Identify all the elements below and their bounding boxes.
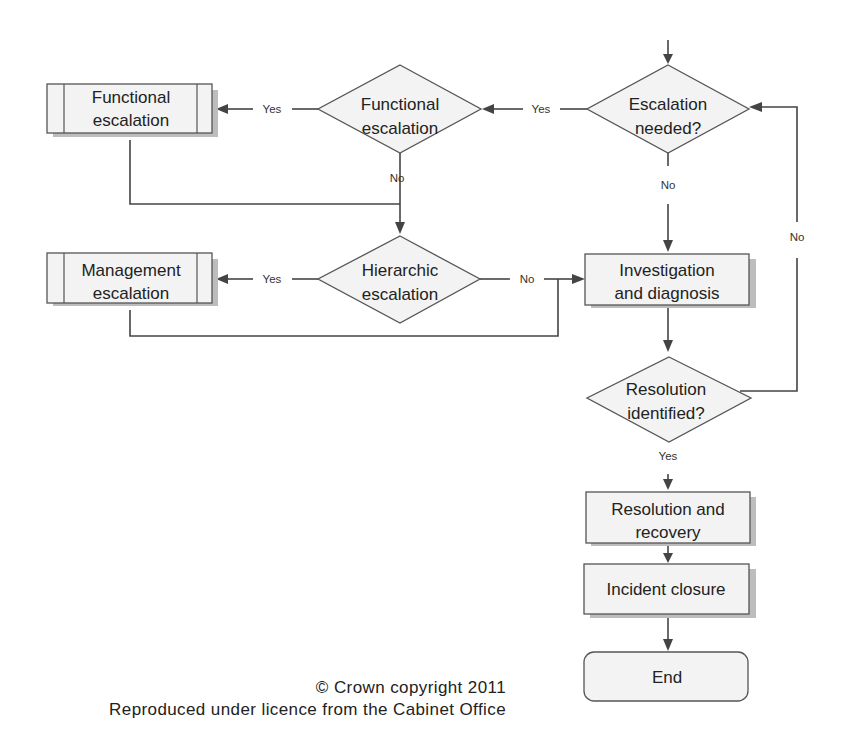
edge-functional-process-join: [130, 140, 400, 204]
decision-resolution-identified-line2: identified?: [627, 404, 705, 423]
process-investigation-line2: and diagnosis: [615, 284, 720, 303]
arrowhead-icon: [663, 639, 673, 651]
decision-hierarchic-escalation-line2: escalation: [362, 285, 439, 304]
arrowhead-icon: [663, 54, 673, 64]
decision-escalation-needed-line2: needed?: [635, 119, 701, 138]
copyright-notice: © Crown copyright 2011: [316, 678, 506, 698]
process-functional-escalation-line1: Functional: [92, 88, 170, 107]
decision-escalation-needed-line1: Escalation: [629, 95, 707, 114]
process-investigation-diagnosis: Investigation and diagnosis: [585, 254, 756, 308]
process-functional-escalation: Functional escalation: [47, 84, 218, 137]
label-resolution-no: No: [790, 231, 805, 243]
arrowhead-icon: [663, 240, 673, 252]
incident-escalation-flowchart: Yes Yes No Yes No No No Yes Escalation n…: [0, 0, 842, 756]
label-escalation-no: No: [661, 179, 676, 191]
decision-hierarchic-escalation-line1: Hierarchic: [362, 261, 439, 280]
arrowhead-icon: [663, 553, 673, 563]
arrowhead-icon: [749, 102, 762, 112]
process-management-escalation-line2: escalation: [93, 284, 170, 303]
process-resolution-recovery-line1: Resolution and: [611, 500, 724, 519]
process-management-escalation-line1: Management: [81, 261, 181, 280]
decision-functional-escalation-line1: Functional: [361, 95, 439, 114]
process-resolution-recovery-line2: recovery: [635, 523, 701, 542]
label-hierarchic-yes: Yes: [263, 273, 282, 285]
edge-resolution-no-loop-upper: [760, 107, 797, 222]
arrowhead-icon: [572, 274, 585, 284]
decision-resolution-identified: Resolution identified?: [587, 357, 751, 442]
decision-functional-escalation: Functional escalation: [318, 65, 481, 153]
process-management-escalation: Management escalation: [47, 253, 218, 306]
decision-hierarchic-escalation: Hierarchic escalation: [318, 236, 480, 323]
label-escalation-yes: Yes: [532, 103, 551, 115]
process-resolution-recovery: Resolution and recovery: [586, 492, 756, 546]
arrowhead-icon: [663, 479, 673, 490]
arrowhead-icon: [395, 222, 405, 234]
process-incident-closure: Incident closure: [584, 564, 756, 618]
arrowhead-icon: [482, 104, 494, 114]
decision-functional-escalation-line2: escalation: [362, 119, 439, 138]
process-investigation-line1: Investigation: [619, 261, 714, 280]
decision-resolution-identified-line1: Resolution: [626, 380, 706, 399]
licence-notice: Reproduced under licence from the Cabine…: [109, 700, 506, 720]
label-resolution-yes: Yes: [659, 450, 678, 462]
process-incident-closure-label: Incident closure: [606, 580, 725, 599]
process-functional-escalation-line2: escalation: [93, 111, 170, 130]
arrowhead-icon: [663, 340, 673, 352]
terminator-end: End: [584, 652, 748, 701]
terminator-end-label: End: [652, 668, 682, 687]
label-functional-yes: Yes: [263, 103, 282, 115]
label-hierarchic-no: No: [520, 273, 535, 285]
label-functional-no: No: [390, 172, 405, 184]
decision-escalation-needed: Escalation needed?: [587, 65, 749, 153]
